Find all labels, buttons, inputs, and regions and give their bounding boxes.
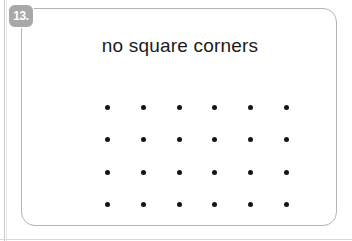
grid-dot[interactable] xyxy=(284,105,289,110)
grid-dot[interactable] xyxy=(141,202,146,207)
grid-dot[interactable] xyxy=(248,137,253,142)
page-bottom-edge-line xyxy=(0,239,352,240)
grid-dot[interactable] xyxy=(105,105,110,110)
grid-dot[interactable] xyxy=(177,202,182,207)
grid-dot[interactable] xyxy=(177,105,182,110)
grid-dot[interactable] xyxy=(141,170,146,175)
question-number-badge: 13. xyxy=(8,4,34,28)
page-title: no square corners xyxy=(22,35,338,57)
dot-grid xyxy=(90,91,304,221)
grid-dot[interactable] xyxy=(284,202,289,207)
grid-dot[interactable] xyxy=(248,170,253,175)
grid-dot[interactable] xyxy=(248,202,253,207)
grid-dot[interactable] xyxy=(141,105,146,110)
grid-dot[interactable] xyxy=(105,170,110,175)
page-left-edge-line xyxy=(4,0,5,241)
grid-dot[interactable] xyxy=(177,170,182,175)
grid-dot[interactable] xyxy=(284,137,289,142)
grid-dot[interactable] xyxy=(105,202,110,207)
grid-dot[interactable] xyxy=(105,137,110,142)
grid-dot[interactable] xyxy=(212,137,217,142)
worksheet-card: no square corners xyxy=(21,8,337,226)
grid-dot[interactable] xyxy=(212,202,217,207)
grid-dot[interactable] xyxy=(177,137,182,142)
grid-dot[interactable] xyxy=(212,170,217,175)
grid-dot[interactable] xyxy=(248,105,253,110)
page-left-edge-line-secondary xyxy=(6,0,7,241)
grid-dot[interactable] xyxy=(212,105,217,110)
grid-dot[interactable] xyxy=(141,137,146,142)
grid-dot[interactable] xyxy=(284,170,289,175)
question-number-label: 13. xyxy=(13,10,28,22)
